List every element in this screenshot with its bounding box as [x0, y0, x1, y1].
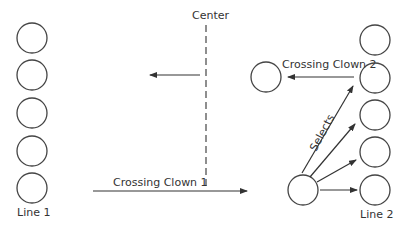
line1-clown-4 — [17, 136, 47, 166]
line1-group — [17, 23, 47, 203]
line1-clown-3 — [17, 98, 47, 128]
line1-clown-5 — [17, 173, 47, 203]
line2-clown-3 — [360, 100, 390, 130]
selects-arrows — [302, 86, 357, 190]
selector-clown — [288, 175, 318, 205]
center-label: Center — [192, 9, 230, 22]
line1-clown-1 — [17, 23, 47, 53]
diagram-canvas: Line 1 Center Crossing Clown 1 Crossing … — [0, 0, 411, 231]
selects-arrow-3 — [317, 160, 356, 182]
line2-group — [360, 25, 390, 205]
line1-clown-2 — [17, 60, 47, 90]
line2-clown-1 — [360, 25, 390, 55]
crossing-clown-1-label: Crossing Clown 1 — [113, 176, 208, 189]
line1-label: Line 1 — [17, 206, 50, 219]
selects-label: Selects — [307, 112, 337, 153]
crossed-clown — [251, 62, 281, 92]
line2-clown-4 — [360, 137, 390, 167]
line2-clown-5 — [360, 175, 390, 205]
line2-label: Line 2 — [360, 208, 393, 221]
